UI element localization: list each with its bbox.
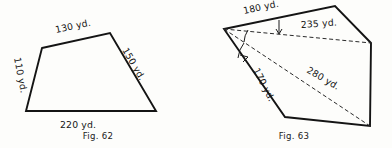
figure-63: 180 yd. 170 yd. 235 yd. 280 yd.: [196, 0, 392, 148]
pentagon-outline: [224, 6, 371, 126]
figure-63-drawing: 180 yd. 170 yd. 235 yd. 280 yd.: [196, 0, 392, 148]
edge-label-170-yd: 170 yd.: [251, 66, 277, 103]
edge-label-220-yd: 220 yd.: [60, 119, 96, 130]
angle-arc-upper: [244, 30, 248, 42]
diagonal-label-235-yd: 235 yd.: [300, 17, 337, 30]
figure-63-caption: Fig. 63: [196, 131, 392, 141]
diagonal-label-280-yd: 280 yd.: [305, 64, 342, 92]
figure-62-caption: Fig. 62: [0, 131, 196, 141]
figure-62-drawing: 130 yd. 150 yd. 220 yd. 110 yd.: [0, 0, 196, 148]
edge-label-110-yd: 110 yd.: [12, 56, 30, 94]
edge-label-150-yd: 150 yd.: [120, 46, 148, 83]
figures-page: 130 yd. 150 yd. 220 yd. 110 yd. 180 yd. …: [0, 0, 392, 148]
diagonal-to-right-vertex: [224, 29, 371, 43]
figure-62: 130 yd. 150 yd. 220 yd. 110 yd.: [0, 0, 196, 148]
edge-label-180-yd: 180 yd.: [242, 0, 280, 16]
diagonal-to-bottom-right-vertex: [224, 29, 370, 126]
edge-label-130-yd: 130 yd.: [54, 17, 92, 35]
